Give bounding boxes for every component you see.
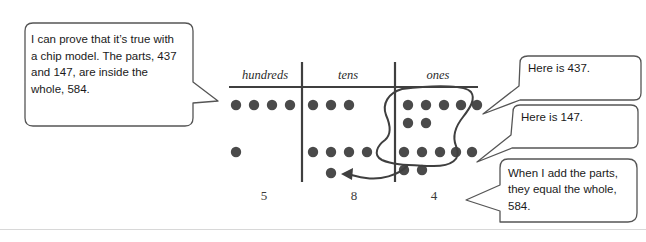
chip [249, 100, 259, 110]
chip [326, 168, 336, 178]
sum-explanation-text: When I add the parts, they equal the who… [508, 165, 630, 214]
chip [326, 147, 336, 157]
bottom-divider [0, 229, 646, 230]
chip [362, 147, 372, 157]
chip [467, 147, 477, 157]
chip-model-figure: I can prove that it’s true with a chip m… [0, 0, 646, 242]
chips-437 [231, 100, 482, 128]
chip [421, 118, 431, 128]
chip [344, 147, 354, 157]
chip [417, 147, 427, 157]
chip [403, 100, 413, 110]
chip [326, 100, 336, 110]
here-is-437-text: Here is 437. [528, 61, 638, 76]
chip [399, 147, 409, 157]
chip [439, 100, 449, 110]
chip [472, 100, 482, 110]
arrow-shaft [345, 165, 408, 178]
chip [344, 100, 354, 110]
chip [456, 100, 466, 110]
regrouped-ten-chip [326, 168, 336, 178]
chips-147 [231, 147, 477, 175]
chip [308, 100, 318, 110]
chip [435, 147, 445, 157]
sum-digit-ones: 4 [408, 188, 460, 204]
sum-digit-tens: 8 [328, 188, 380, 204]
chip [267, 100, 277, 110]
regroup-arrow-to-tens [341, 165, 408, 180]
sum-digit-hundreds: 5 [238, 188, 290, 204]
column-header-hundreds: hundreds [232, 68, 298, 83]
arrow-head [341, 168, 353, 180]
column-header-tens: tens [315, 68, 381, 83]
chip-model-explanation-text: I can prove that it’s true with a chip m… [31, 31, 183, 97]
chip [231, 100, 241, 110]
chip [231, 147, 241, 157]
chip [421, 100, 431, 110]
here-is-147-text: Here is 147. [521, 110, 631, 125]
chip [285, 100, 295, 110]
chip [403, 118, 413, 128]
chip [308, 147, 318, 157]
column-header-ones: ones [405, 68, 471, 83]
